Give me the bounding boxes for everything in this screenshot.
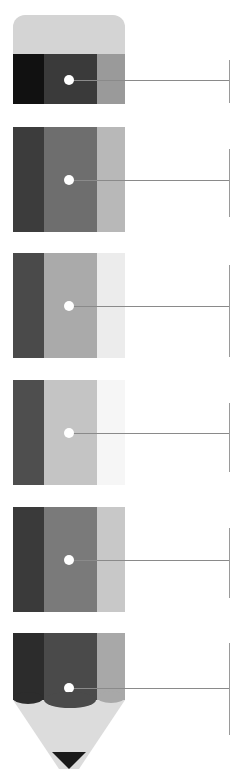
pencil-tip [0, 0, 244, 769]
